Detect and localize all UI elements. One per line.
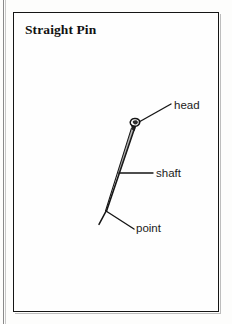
pin-point-icon [99,211,106,225]
leader-line-point [106,211,134,229]
callout-label-point: point [136,222,161,234]
callout-label-head: head [174,99,200,111]
pin-shaft-icon [106,128,135,211]
straight-pin-diagram [0,0,232,324]
pin-drawing [99,119,140,225]
figure-page: Straight Pin [0,0,232,324]
callout-label-shaft: shaft [156,167,181,179]
leader-line-head [139,104,171,122]
